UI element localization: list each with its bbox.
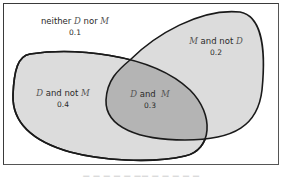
region-d-not-m-label: D and not M 0.4: [28, 88, 98, 110]
region-d-not-m-value: 0.4: [28, 99, 98, 110]
set-symbol-m: M: [189, 36, 198, 46]
label-text: and: [137, 89, 161, 99]
set-symbol-d: D: [36, 88, 43, 98]
region-d-and-m-value: 0.3: [122, 100, 178, 111]
region-m-not-d-value: 0.2: [178, 47, 254, 58]
set-symbol-d: D: [130, 89, 137, 99]
set-symbol-m: M: [100, 16, 109, 26]
set-symbol-m: M: [161, 89, 170, 99]
figure-caption: — — — — — —— — — — — —: [0, 172, 283, 179]
label-text: nor: [81, 16, 101, 26]
label-text: and not: [43, 88, 81, 98]
set-symbol-d: D: [236, 36, 243, 46]
region-m-not-d-label: M and not D 0.2: [178, 36, 254, 58]
region-neither-value: 0.1: [30, 27, 120, 38]
label-text: neither: [41, 16, 74, 26]
label-text: and not: [198, 36, 236, 46]
region-d-and-m-label: D and M 0.3: [122, 89, 178, 111]
set-symbol-m: M: [81, 88, 90, 98]
region-neither-label: neither D nor M 0.1: [30, 16, 120, 38]
set-symbol-d: D: [74, 16, 81, 26]
